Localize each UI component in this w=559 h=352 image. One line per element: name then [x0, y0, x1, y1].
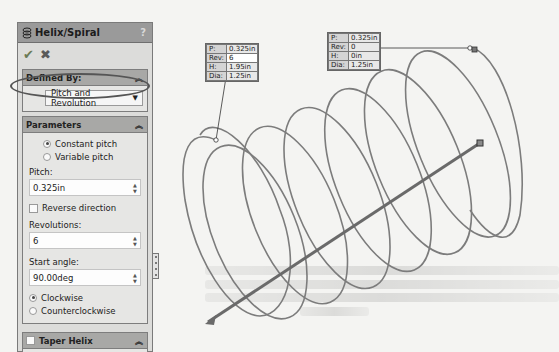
- checkbox-icon: [29, 204, 38, 213]
- radio-selected-icon: [29, 294, 37, 302]
- start-point-handle: [472, 47, 477, 52]
- reverse-direction-label: Reverse direction: [42, 203, 116, 213]
- defined-by-dropdown[interactable]: Pitch and Revolution ▼: [45, 90, 143, 106]
- grip-dot-icon: [155, 268, 157, 270]
- constant-pitch-radio[interactable]: Constant pitch: [29, 137, 141, 150]
- pitch-value: 0.325in: [33, 183, 65, 193]
- counterclockwise-label: Counterclockwise: [41, 306, 116, 316]
- defined-by-group: Defined By: ︽ Pitch and Revolution ▼: [22, 69, 148, 112]
- panel-title: Helix/Spiral: [35, 27, 100, 38]
- radio-unselected-icon: [43, 153, 51, 161]
- collapse-chevron-icon[interactable]: ︽: [135, 119, 143, 130]
- callout-key: Dia:: [329, 61, 349, 70]
- defined-by-header[interactable]: Defined By: ︽: [23, 70, 147, 86]
- help-button[interactable]: ?: [140, 27, 146, 38]
- cancel-button[interactable]: ✖: [40, 47, 51, 62]
- end-point-marker: [214, 138, 218, 142]
- variable-pitch-radio[interactable]: Variable pitch: [29, 150, 141, 163]
- counterclockwise-radio[interactable]: Counterclockwise: [29, 304, 141, 317]
- clockwise-radio[interactable]: Clockwise: [29, 291, 141, 304]
- callout-diameter-value[interactable]: 1.25in: [227, 72, 258, 81]
- helix-spiral-icon: [22, 27, 32, 39]
- grip-dot-icon: [155, 262, 157, 264]
- axis-arrowhead-icon: [205, 315, 216, 325]
- callout-diameter-value[interactable]: 1.25in: [349, 61, 380, 70]
- callout-rev-value[interactable]: 0: [349, 43, 380, 52]
- callout-height-value[interactable]: 0in: [349, 52, 380, 61]
- x-icon: ✖: [40, 47, 51, 62]
- revolutions-value: 6: [33, 236, 38, 246]
- dropdown-arrow-icon: ▼: [133, 94, 138, 102]
- defined-by-label: Defined By:: [26, 73, 81, 83]
- end-point-callout[interactable]: P:0.325in Rev:6 H:1.95in Dia:1.25in: [205, 43, 259, 82]
- grip-dot-icon: [155, 274, 157, 276]
- parameters-label: Parameters: [26, 120, 81, 130]
- callout-pitch-value[interactable]: 0.325in: [349, 34, 380, 43]
- parameters-group: Parameters ︽ Constant pitch Variable pit…: [22, 116, 148, 324]
- helix-property-manager: Helix/Spiral ? ✔ ✖ Defined By: ︽ Pitch a…: [17, 22, 153, 352]
- clockwise-label: Clockwise: [41, 293, 83, 303]
- variable-pitch-label: Variable pitch: [55, 152, 113, 162]
- callout-key: P:: [329, 34, 349, 43]
- taper-helix-label: Taper Helix: [39, 336, 93, 346]
- callout-key: Rev:: [329, 43, 349, 52]
- callout-rev-value[interactable]: 6: [227, 54, 258, 63]
- radio-unselected-icon: [29, 307, 37, 315]
- callout-key: H:: [207, 63, 227, 72]
- callout-key: Dia:: [207, 72, 227, 81]
- taper-helix-group: Taper Helix ︽ 0.00deg ▲▼: [22, 332, 148, 352]
- pitch-input[interactable]: 0.325in ▲▼: [29, 179, 141, 196]
- start-angle-label: Start angle:: [29, 257, 141, 269]
- callout-key: H:: [329, 52, 349, 61]
- callout-height-value[interactable]: 1.95in: [227, 63, 258, 72]
- revolutions-spinner[interactable]: ▲▼: [130, 235, 140, 247]
- checkmark-icon: ✔: [23, 47, 34, 62]
- revolutions-label: Revolutions:: [29, 220, 141, 232]
- helix-axis-line: [208, 143, 480, 322]
- pitch-label: Pitch:: [29, 167, 141, 179]
- panel-title-bar: Helix/Spiral ?: [18, 23, 152, 43]
- pitch-spinner[interactable]: ▲▼: [130, 182, 140, 194]
- reverse-direction-checkbox[interactable]: Reverse direction: [29, 200, 141, 216]
- constant-pitch-label: Constant pitch: [55, 139, 117, 149]
- callout-pitch-value[interactable]: 0.325in: [227, 45, 258, 54]
- revolutions-input[interactable]: 6 ▲▼: [29, 232, 141, 249]
- defined-by-selected: Pitch and Revolution: [51, 88, 133, 108]
- grip-dot-icon: [155, 256, 157, 258]
- panel-resize-grip[interactable]: [153, 253, 159, 279]
- start-angle-input[interactable]: 90.00deg ▲▼: [29, 269, 141, 286]
- taper-helix-checkbox[interactable]: [26, 336, 35, 345]
- callout-key: Rev:: [207, 54, 227, 63]
- radio-selected-icon: [43, 140, 51, 148]
- collapse-chevron-icon[interactable]: ︽: [135, 335, 143, 346]
- callout-key: P:: [207, 45, 227, 54]
- start-point-callout[interactable]: P:0.325in Rev:0 H:0in Dia:1.25in: [327, 32, 381, 71]
- ok-button[interactable]: ✔: [23, 47, 34, 62]
- action-buttons: ✔ ✖: [18, 43, 152, 65]
- axis-endpoint-handle: [477, 140, 483, 146]
- taper-helix-header[interactable]: Taper Helix ︽: [23, 333, 147, 349]
- start-point-marker: [468, 46, 472, 50]
- parameters-header[interactable]: Parameters ︽: [23, 117, 147, 133]
- start-angle-spinner[interactable]: ▲▼: [130, 272, 140, 284]
- start-angle-value: 90.00deg: [33, 273, 73, 283]
- collapse-chevron-icon[interactable]: ︽: [135, 72, 143, 83]
